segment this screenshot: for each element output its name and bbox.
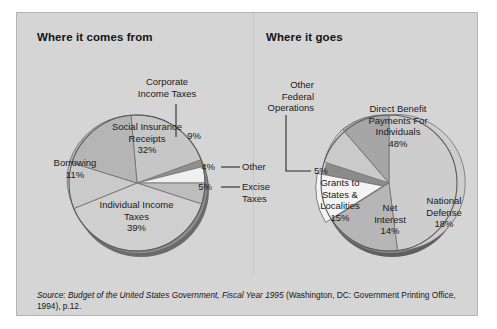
label-other-pct: 4% [195,161,221,173]
label-ofo-line2: Federal [258,91,314,103]
source-citation: Source: Budget of the United States Gove… [37,290,463,311]
label-borrowing-pct: 11% [37,169,113,181]
label-individual-income-taxes: Individual Income Taxes 39% [79,199,194,234]
source-prefix: Source: [37,290,66,300]
label-defense-line1: National [411,195,477,207]
label-direct-pct: 48% [348,138,448,150]
source-title: Budget of the United States Government, … [68,290,284,300]
label-direct-line2: Payments For [348,115,448,127]
label-borrowing: Borrowing 11% [37,157,113,180]
label-individual-line2: Taxes [79,211,194,223]
label-ofo-pct: 5% [314,165,340,177]
label-social-insurance-pct: 32% [92,144,202,156]
panel-title-right: Where it goes [266,31,343,43]
label-excise-pct: 5% [192,181,218,193]
label-borrowing-name: Borrowing [37,157,113,169]
label-corporate-income-taxes: Corporate Income Taxes [117,76,217,99]
label-grants-line1: Grants to [303,177,377,189]
label-defense-pct: 18% [411,218,477,230]
label-net-interest: Net Interest 14% [364,202,416,237]
panel-divider [253,13,254,275]
label-individual-pct: 39% [79,222,194,234]
label-corporate-pct: 9% [181,130,207,142]
label-net-pct: 14% [364,225,416,237]
label-corporate-line1: Corporate [117,76,217,88]
label-net-line2: Interest [364,214,416,226]
label-national-defense: National Defense 18% [411,195,477,230]
label-grants-line2: States & [303,189,377,201]
label-individual-line1: Individual Income [79,199,194,211]
label-direct-line3: Individuals [348,126,448,138]
label-defense-line2: Defense [411,207,477,219]
panel-title-left: Where it comes from [37,31,153,43]
figure-panel: Where it comes from Where it goes [16,12,478,316]
leader-line-other-federal-operations [286,115,311,171]
label-direct-benefit-payments: Direct Benefit Payments For Individuals … [348,103,448,149]
label-net-line1: Net [364,202,416,214]
label-ofo-line1: Other [258,79,314,91]
label-other-federal-operations: Other Federal Operations [258,79,314,114]
label-direct-line1: Direct Benefit [348,103,448,115]
label-ofo-line3: Operations [258,102,314,114]
label-corporate-line2: Income Taxes [117,88,217,100]
